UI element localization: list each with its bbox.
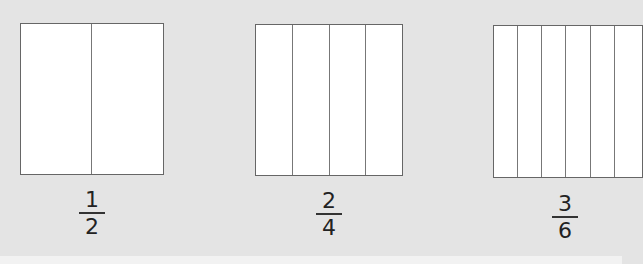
partition-line [329,25,330,175]
partition-line [565,26,566,177]
partition-line [614,26,615,177]
partition-line [91,24,92,174]
partition-line [590,26,591,177]
fraction-model-sixths [493,25,643,178]
denominator: 4 [309,217,349,239]
fraction-model-halves [20,23,164,175]
bottom-margin [0,256,622,264]
numerator: 2 [309,190,349,212]
partition-line [292,25,293,175]
fraction-model-fourths [255,24,403,176]
fraction-label-halves: 1 2 [72,189,112,238]
numerator: 1 [72,189,112,211]
denominator: 6 [545,220,585,242]
partition-line [541,26,542,177]
denominator: 2 [72,216,112,238]
partition-line [517,26,518,177]
numerator: 3 [545,193,585,215]
fraction-label-sixths: 3 6 [545,193,585,242]
partition-line [365,25,366,175]
fraction-label-fourths: 2 4 [309,190,349,239]
